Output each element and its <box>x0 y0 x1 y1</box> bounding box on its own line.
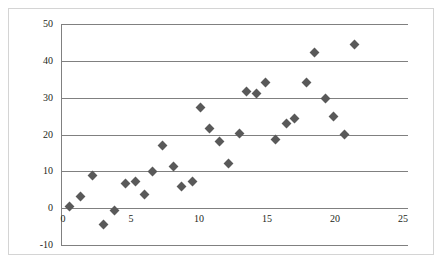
data-point <box>195 103 205 113</box>
plot-area <box>61 24 408 245</box>
data-point <box>301 78 311 88</box>
data-point <box>310 47 320 57</box>
data-point <box>187 176 197 186</box>
gridline-y--10 <box>61 245 408 246</box>
data-point <box>261 78 271 88</box>
data-point <box>65 201 75 211</box>
data-point <box>251 88 261 98</box>
data-point <box>214 136 224 146</box>
y-tick-label-10: 10 <box>19 166 53 176</box>
data-point <box>140 190 150 200</box>
y-tick-label-50: 50 <box>19 19 53 29</box>
data-point <box>176 181 186 191</box>
data-point <box>289 113 299 123</box>
data-point <box>281 119 291 129</box>
data-point <box>110 205 120 215</box>
data-point <box>88 170 98 180</box>
data-point <box>168 161 178 171</box>
data-point <box>121 179 131 189</box>
data-point <box>157 141 167 151</box>
data-point <box>76 191 86 201</box>
scatter-plot-figure: -1001020304050 0510152025 <box>0 0 447 266</box>
data-point <box>148 167 158 177</box>
data-point <box>130 176 140 186</box>
y-tick-label-30: 30 <box>19 93 53 103</box>
data-point <box>99 219 109 229</box>
data-point <box>235 128 245 138</box>
data-point <box>321 94 331 104</box>
data-point <box>242 86 252 96</box>
y-tick-label-20: 20 <box>19 130 53 140</box>
data-point <box>224 158 234 168</box>
y-tick-label-40: 40 <box>19 56 53 66</box>
y-tick-label--10: -10 <box>19 240 53 250</box>
y-tick-label-0: 0 <box>19 203 53 213</box>
data-point <box>340 129 350 139</box>
data-point <box>329 112 339 122</box>
data-point <box>349 40 359 50</box>
data-point <box>270 135 280 145</box>
data-point <box>205 123 215 133</box>
